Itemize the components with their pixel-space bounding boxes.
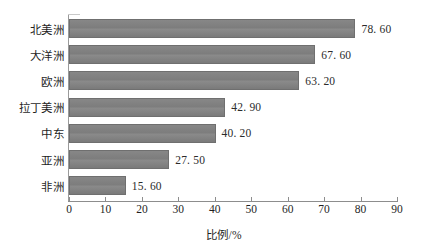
bar [69, 98, 225, 117]
bar-row: 40. 20 [69, 124, 397, 143]
plot-frame-stub [68, 14, 80, 15]
category-label: 非洲 [0, 176, 64, 195]
x-tick-mark [251, 197, 252, 201]
x-axis-line [68, 201, 398, 202]
category-label: 亚洲 [0, 150, 64, 169]
bar-value-label: 63. 20 [305, 75, 335, 87]
category-label: 欧洲 [0, 71, 64, 90]
x-tick-label: 30 [173, 203, 185, 215]
bar [69, 124, 216, 143]
category-label: 大洋洲 [0, 45, 64, 64]
x-tick-mark [361, 197, 362, 201]
x-axis-title: 比例/% [0, 226, 448, 242]
bar [69, 19, 355, 38]
bar-value-label: 15. 60 [132, 179, 162, 191]
x-tick-label: 50 [245, 203, 257, 215]
bar-value-label: 40. 20 [222, 127, 252, 139]
x-tick-mark [178, 197, 179, 201]
x-tick-mark [69, 197, 70, 201]
bar [69, 45, 315, 64]
bar-row: 15. 60 [69, 176, 397, 195]
x-tick-label: 10 [100, 203, 112, 215]
x-tick-mark [105, 197, 106, 201]
bar-value-label: 42. 90 [231, 101, 261, 113]
x-tick-mark [215, 197, 216, 201]
x-tick-label: 20 [136, 203, 148, 215]
bar-row: 78. 60 [69, 19, 397, 38]
x-tick-label: 40 [209, 203, 221, 215]
x-tick-label: 60 [282, 203, 294, 215]
bar-value-label: 78. 60 [361, 22, 391, 34]
bar-value-label: 67. 60 [321, 48, 351, 60]
x-tick-mark [324, 197, 325, 201]
category-label: 北美洲 [0, 19, 64, 38]
bar-row: 27. 50 [69, 150, 397, 169]
bar [69, 176, 126, 195]
x-tick-label: 90 [391, 203, 403, 215]
bar-row: 63. 20 [69, 71, 397, 90]
bar-row: 67. 60 [69, 45, 397, 64]
x-tick-label: 80 [355, 203, 367, 215]
category-label: 中东 [0, 124, 64, 143]
bar [69, 71, 299, 90]
category-label: 拉丁美洲 [0, 98, 64, 117]
x-tick-mark [288, 197, 289, 201]
bar-value-label: 27. 50 [175, 153, 205, 165]
x-tick-mark [142, 197, 143, 201]
x-tick-label: 70 [318, 203, 330, 215]
x-tick-label: 0 [66, 203, 72, 215]
bar [69, 150, 169, 169]
bar-chart: 北美洲大洋洲欧洲拉丁美洲中东亚洲非洲 78. 6067. 6063. 2042.… [0, 0, 448, 249]
bar-row: 42. 90 [69, 98, 397, 117]
x-tick-mark [397, 197, 398, 201]
